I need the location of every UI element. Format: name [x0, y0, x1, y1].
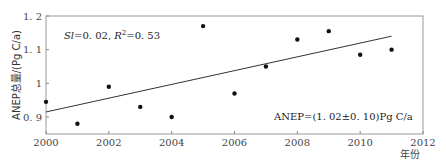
data-point — [232, 91, 236, 95]
slope-r2-annotation: Sl=0. 02, R2=0. 53 — [64, 29, 160, 41]
y-tick-label: 1. 1 — [23, 44, 42, 55]
data-point — [138, 105, 142, 109]
trend-line — [46, 36, 392, 112]
data-point — [389, 47, 393, 51]
r2-value: =0. 53 — [126, 30, 160, 41]
x-tick-label: 2008 — [285, 137, 310, 148]
data-point — [75, 122, 79, 126]
y-tick-label: 0. 9 — [23, 112, 42, 123]
data-point — [44, 100, 48, 104]
y-tick-label: 1 — [36, 78, 42, 89]
x-tick-label: 2012 — [410, 137, 435, 148]
data-point — [201, 24, 205, 28]
data-point — [358, 53, 362, 57]
x-tick-label: 2004 — [159, 137, 184, 148]
x-tick-label: 2000 — [33, 137, 58, 148]
data-point — [107, 85, 111, 89]
x-tick-label: 2002 — [96, 137, 121, 148]
x-axis-label: 年份 — [400, 148, 420, 160]
y-axis-label: ANEP总量/(Pg C/a) — [10, 30, 22, 120]
slope-value: =0. 02, — [74, 30, 114, 41]
data-point — [295, 37, 299, 41]
mean-anep-annotation: ANEP=(1. 02±0. 10)Pg C/a — [273, 111, 413, 122]
data-point — [169, 115, 173, 119]
x-tick-label: 2010 — [347, 137, 372, 148]
y-tick-label: 1. 2 — [23, 11, 42, 22]
anep-chart: 20002002200420062008201020120. 911. 11. … — [0, 0, 446, 166]
data-point — [264, 64, 268, 68]
data-point — [327, 29, 331, 33]
slope-symbol: Sl — [64, 30, 74, 41]
x-tick-label: 2006 — [222, 137, 247, 148]
